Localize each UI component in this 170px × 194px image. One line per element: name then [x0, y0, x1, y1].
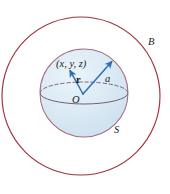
figure-canvas: (x, y, z) r a O S B: [0, 0, 170, 194]
sphere-label-S: S: [114, 124, 120, 135]
vector-r-label: r: [76, 74, 81, 85]
ball-label-B: B: [148, 36, 155, 47]
origin-label-O: O: [72, 94, 80, 105]
sphere-ball-figure: (x, y, z) r a O S B: [0, 0, 170, 194]
point-coordinates-label: (x, y, z): [56, 58, 87, 70]
origin-dot: [82, 93, 84, 95]
radius-a-label: a: [105, 73, 110, 84]
